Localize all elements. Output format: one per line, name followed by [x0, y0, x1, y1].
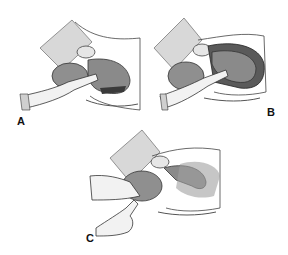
panel-label-a: A: [17, 115, 25, 127]
panel-a-illustration: [0, 0, 144, 128]
panel-c: C: [80, 128, 230, 255]
panel-a: A: [0, 0, 144, 128]
panel-label-b: B: [267, 106, 275, 118]
panel-label-c: C: [86, 232, 94, 244]
panel-b: B: [144, 0, 288, 128]
panel-c-illustration: [80, 128, 230, 255]
